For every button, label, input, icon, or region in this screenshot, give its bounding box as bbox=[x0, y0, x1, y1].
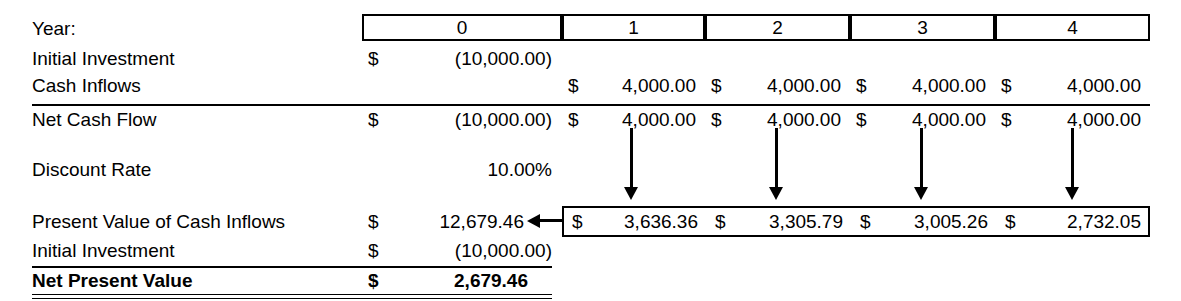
row-label-present-value-of-cash-inflows: Present Value of Cash Inflows bbox=[32, 212, 285, 231]
currency-symbol-present-value-y4: $ bbox=[1005, 212, 1016, 231]
row-label-net-cash-flow: Net Cash Flow bbox=[32, 110, 157, 129]
currency-symbol-net-cash-flow-y3: $ bbox=[856, 110, 867, 129]
total-rule-bottom bbox=[32, 298, 552, 299]
currency-symbol-present-value-y1: $ bbox=[572, 212, 583, 231]
year-header-cell-0: 0 bbox=[362, 14, 562, 41]
currency-symbol-net-cash-flow-y4: $ bbox=[1001, 110, 1012, 129]
value-net-cash-flow-y1: 4,000.00 bbox=[596, 110, 696, 129]
discount-arrow-y1-icon bbox=[624, 128, 638, 200]
currency-symbol-net-cash-flow-y2: $ bbox=[711, 110, 722, 129]
currency-symbol-present-value-total: $ bbox=[368, 212, 379, 231]
value-net-cash-flow-y3: 4,000.00 bbox=[884, 110, 986, 129]
currency-symbol-net-cash-flow-y1: $ bbox=[568, 110, 579, 129]
year-header-cell-1: 1 bbox=[562, 14, 705, 41]
value-initial-investment-bottom: (10,000.00) bbox=[400, 241, 552, 260]
value-cash-inflows-y3: 4,000.00 bbox=[884, 76, 986, 95]
total-rule-top bbox=[32, 294, 552, 295]
year-row-label: Year: bbox=[32, 19, 76, 38]
value-present-value-y2: 3,305.79 bbox=[741, 212, 843, 231]
currency-symbol-net-present-value: $ bbox=[368, 271, 379, 290]
currency-symbol-cash-inflows-y2: $ bbox=[711, 76, 722, 95]
currency-symbol-present-value-y2: $ bbox=[715, 212, 726, 231]
discount-arrow-y4-icon bbox=[1065, 128, 1079, 200]
value-present-value-y3: 3,005.26 bbox=[886, 212, 988, 231]
row-label-cash-inflows: Cash Inflows bbox=[32, 76, 141, 95]
discount-arrow-y3-icon bbox=[914, 128, 928, 200]
value-initial-investment-y0: (10,000.00) bbox=[400, 49, 552, 68]
currency-symbol-cash-inflows-y4: $ bbox=[1001, 76, 1012, 95]
value-present-value-y4: 2,732.05 bbox=[1031, 212, 1141, 231]
year-header-cell-3: 3 bbox=[850, 14, 995, 41]
value-net-cash-flow-y4: 4,000.00 bbox=[1029, 110, 1141, 129]
row-label-initial-investment: Initial Investment bbox=[32, 49, 175, 68]
year-header-cell-2: 2 bbox=[705, 14, 850, 41]
currency-symbol-cash-inflows-y3: $ bbox=[856, 76, 867, 95]
currency-symbol-initial-investment-y0: $ bbox=[368, 49, 379, 68]
subtotal-rule-net-cash-flow bbox=[32, 104, 1150, 106]
row-label-initial-investment-bottom: Initial Investment bbox=[32, 241, 175, 260]
year-header-cell-4: 4 bbox=[995, 14, 1150, 41]
discount-arrow-y2-icon bbox=[769, 128, 783, 200]
value-present-value-y1: 3,636.36 bbox=[598, 212, 698, 231]
row-label-net-present-value: Net Present Value bbox=[32, 271, 193, 290]
sum-arrow-left-icon bbox=[527, 214, 563, 228]
currency-symbol-initial-investment-bottom: $ bbox=[368, 241, 379, 260]
value-discount-rate: 10.00% bbox=[400, 160, 552, 179]
currency-symbol-net-cash-flow-y0: $ bbox=[368, 110, 379, 129]
value-cash-inflows-y2: 4,000.00 bbox=[739, 76, 841, 95]
npv-worksheet: Year: 0 1 2 3 4 Initial Investment $ (10… bbox=[0, 0, 1181, 301]
currency-symbol-cash-inflows-y1: $ bbox=[568, 76, 579, 95]
currency-symbol-present-value-y3: $ bbox=[860, 212, 871, 231]
value-net-cash-flow-y2: 4,000.00 bbox=[739, 110, 841, 129]
row-label-discount-rate: Discount Rate bbox=[32, 160, 151, 179]
value-cash-inflows-y4: 4,000.00 bbox=[1029, 76, 1141, 95]
value-present-value-total: 12,679.46 bbox=[400, 212, 524, 231]
subtotal-rule-net-present-value bbox=[32, 266, 552, 268]
value-net-cash-flow-y0: (10,000.00) bbox=[400, 110, 552, 129]
value-cash-inflows-y1: 4,000.00 bbox=[596, 76, 696, 95]
value-net-present-value: 2,679.46 bbox=[400, 271, 528, 290]
